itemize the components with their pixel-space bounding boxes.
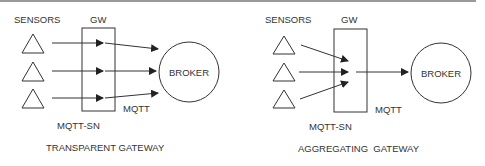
broker-label: BROKER (169, 67, 209, 78)
mqtt-label: MQTT (123, 103, 150, 114)
mqtt-label: MQTT (375, 104, 402, 115)
diagram-caption: TRANSPARENT GATEWAY (46, 142, 165, 153)
gateway-label: GW (90, 14, 106, 25)
gateway-box (82, 28, 115, 111)
sensor-triangle-icon (22, 34, 44, 53)
sensor-triangle-icon (22, 62, 44, 81)
sensors-label: SENSORS (265, 14, 311, 25)
sensors-label: SENSORS (14, 14, 60, 25)
mqttsn-label: MQTT-SN (309, 121, 352, 132)
sensor-triangle-icon (273, 36, 295, 54)
gateway-diagram: SENSORS GW BROKER MQTT MQTT-SN TRANSPARE… (0, 0, 485, 166)
gateway-box (334, 29, 367, 112)
sensor-triangle-icon (273, 63, 295, 81)
broker-label: BROKER (421, 68, 461, 79)
gateway-label: GW (341, 14, 357, 25)
diagram-caption: AGGREGATING GATEWAY (298, 143, 420, 154)
aggregating-gateway-diagram: SENSORS GW BROKER MQTT MQTT-SN AGGREGATI… (265, 14, 471, 154)
sensor-triangle-icon (273, 90, 295, 108)
transparent-gateway-diagram: SENSORS GW BROKER MQTT MQTT-SN TRANSPARE… (14, 14, 219, 153)
mqttsn-label: MQTT-SN (57, 120, 100, 131)
sensor-triangle-icon (22, 89, 44, 108)
